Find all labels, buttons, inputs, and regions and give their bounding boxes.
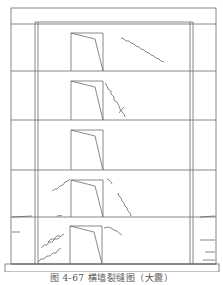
door-deformed-panel — [71, 180, 103, 217]
wall-openings — [70, 33, 103, 264]
base-slab — [5, 264, 219, 272]
crack-line — [104, 227, 122, 235]
crack-line — [57, 216, 62, 217]
door-deformed-panel — [70, 226, 102, 264]
figure-caption: 图 4-67 横墙裂缝图（大震） — [0, 272, 223, 285]
door-deformed-panel — [71, 81, 103, 120]
crack-line — [41, 234, 64, 248]
crack-lines — [12, 38, 215, 262]
crack-line — [121, 38, 164, 62]
crack-line — [105, 83, 125, 117]
building-frame — [5, 8, 219, 272]
crack-line — [38, 248, 61, 262]
crack-line — [52, 179, 70, 191]
crack-line — [107, 179, 112, 184]
crack-pattern-figure — [0, 0, 223, 272]
door-deformed-panel — [71, 130, 103, 170]
door-deformed-panel — [71, 33, 103, 71]
outer-frame — [11, 8, 216, 264]
crack-line — [118, 193, 131, 216]
